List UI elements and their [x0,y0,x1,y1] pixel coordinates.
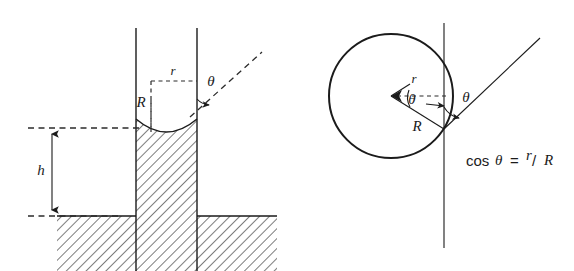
equation-theta: θ [495,152,503,168]
tube-radius-label-right: r [411,71,417,86]
tangent-dashed-line [190,52,262,117]
equation-equals: = [510,152,519,169]
contact-angle-label-right: θ [462,89,470,105]
capillary-rise-panel: h r R θ [28,28,277,271]
cosine-equation: cos θ = r / R [466,147,553,169]
capillary-figure-svg: h r R θ [0,0,574,271]
equation-cos: cos [466,152,489,169]
equation-slash: / [532,152,537,169]
meniscus-sphere-panel: r θ R θ cos θ = r / R [329,23,553,248]
height-label: h [37,162,45,178]
center-angle-upper-ray [391,84,410,96]
sphere-radius-label: R [411,118,421,134]
tube-radius-label: r [170,63,176,78]
equation-denominator: R [543,152,553,168]
contact-pointer-arrow [426,104,444,106]
liquid-column-hatched [136,119,197,271]
meniscus-radius-label: R [135,94,145,110]
contact-angle-label: θ [207,73,215,89]
figure-root: h r R θ [0,0,574,271]
center-angle-label: θ [408,91,416,107]
tangent-line [444,38,540,129]
